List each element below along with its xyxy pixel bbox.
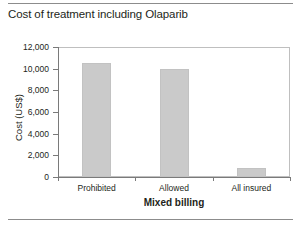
figure-top-rule (8, 3, 293, 4)
x-tick-mark (58, 177, 59, 181)
bar (237, 168, 266, 177)
figure-bottom-rule (8, 219, 293, 220)
bar (160, 69, 189, 177)
bar (82, 63, 111, 177)
y-tick-label: 8,000 (28, 85, 49, 95)
x-axis-line (58, 177, 291, 178)
x-axis-title: Mixed billing (58, 197, 290, 208)
y-tick-label: 0 (44, 172, 49, 182)
x-tick-mark (290, 177, 291, 181)
y-tick-label: 2,000 (28, 150, 49, 160)
y-tick-label: 10,000 (23, 64, 49, 74)
y-tick-label: 12,000 (23, 42, 49, 52)
figure-container: Cost of treatment including Olaparib 02,… (0, 0, 301, 228)
x-tick-label: All insured (231, 183, 271, 193)
y-axis-title: Cost (US$) (13, 76, 24, 160)
bars-group (58, 47, 290, 177)
y-tick-label: 4,000 (28, 129, 49, 139)
y-tick-label: 6,000 (28, 107, 49, 117)
x-tick-label: Allowed (159, 183, 189, 193)
x-tick-mark (135, 177, 136, 181)
x-tick-label: Prohibited (78, 183, 116, 193)
x-tick-mark (213, 177, 214, 181)
chart-title: Cost of treatment including Olaparib (8, 8, 188, 20)
